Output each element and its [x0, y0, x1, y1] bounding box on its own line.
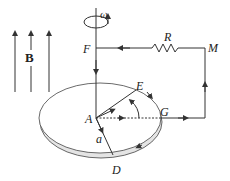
label-B: B [25, 51, 34, 64]
label-D: D [112, 164, 121, 176]
label-E: E [136, 80, 143, 92]
label-R: R [164, 31, 171, 43]
label-G: G [160, 106, 169, 118]
label-omega: ω [100, 9, 108, 20]
label-F: F [83, 43, 90, 55]
diagram-canvas [0, 0, 230, 181]
resistor-icon [152, 44, 178, 52]
label-A: A [85, 113, 92, 125]
label-a: a [96, 133, 102, 145]
disk [39, 83, 162, 158]
label-M: M [208, 42, 218, 54]
